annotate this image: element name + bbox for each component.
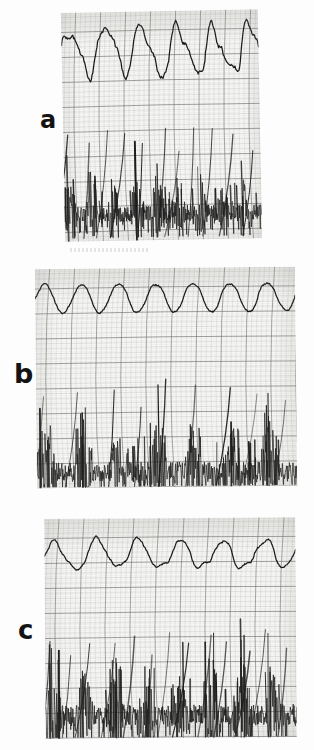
figure-root: abc: [0, 0, 314, 750]
panel-label-b: b: [14, 360, 33, 387]
recording-paper-a: [61, 9, 262, 242]
panel-label-c: c: [18, 617, 33, 643]
recording-paper-c: [44, 517, 297, 739]
panel-label-a: a: [40, 108, 56, 132]
trace-panel-a: [61, 9, 262, 242]
trace-panel-c: [44, 517, 297, 739]
burst-spike-group: [61, 127, 262, 242]
recording-paper-b: [35, 267, 297, 489]
trace-panel-b: [35, 267, 297, 489]
scan-smudge: [70, 248, 150, 252]
